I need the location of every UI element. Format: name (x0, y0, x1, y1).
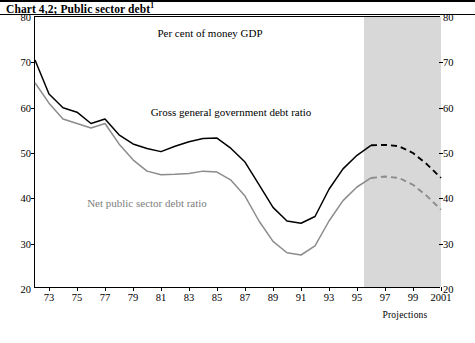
chart-figure: Chart 4,2; Public sector debt1 202030304… (0, 0, 475, 343)
x-axis-tick-label: 85 (212, 292, 223, 303)
y-axis-tick-label-right: 80 (443, 12, 469, 23)
x-axis-tick-label: 93 (324, 292, 335, 303)
x-axis-tick-mark (105, 287, 106, 291)
y-axis-tick-mark (31, 153, 35, 154)
x-axis-tick-mark (245, 287, 246, 291)
x-axis-tick-mark (273, 287, 274, 291)
x-axis-tick-mark (357, 287, 358, 291)
y-axis-tick-label-left: 70 (5, 57, 31, 68)
x-axis-tick-mark (301, 287, 302, 291)
y-axis-tick-mark (439, 198, 443, 199)
x-axis-tick-mark (133, 287, 134, 291)
y-axis-tick-label-left: 80 (5, 12, 31, 23)
x-axis-tick-label: 75 (72, 292, 83, 303)
y-axis-tick-label-left: 50 (5, 148, 31, 159)
x-axis-tick-mark (217, 287, 218, 291)
x-axis-tick-label: 91 (296, 292, 307, 303)
y-axis-tick-label-right: 50 (443, 148, 469, 159)
x-axis-tick-mark (329, 287, 330, 291)
x-axis-tick-label: 79 (128, 292, 139, 303)
chart-annotation: Gross general government debt ratio (151, 106, 312, 118)
x-axis-tick-mark (77, 287, 78, 291)
x-axis-tick-mark (413, 287, 414, 291)
x-axis-tick-label: 77 (100, 292, 111, 303)
x-axis-tick-mark (49, 287, 50, 291)
y-axis-tick-label-right: 60 (443, 102, 469, 113)
y-axis-tick-mark (439, 108, 443, 109)
y-axis-tick-label-left: 30 (5, 238, 31, 249)
y-axis-tick-label-left: 60 (5, 102, 31, 113)
y-axis-tick-mark (31, 244, 35, 245)
x-axis-tick-mark (441, 287, 442, 291)
chart-annotation: Net public sector debt ratio (87, 197, 207, 209)
chart-annotation: Per cent of money GDP (157, 27, 262, 39)
title-footnote-marker: 1 (150, 1, 154, 10)
y-axis-tick-label-left: 40 (5, 193, 31, 204)
y-axis-tick-label-right: 40 (443, 193, 469, 204)
x-axis-tick-mark (189, 287, 190, 291)
y-axis-tick-label-left: 20 (5, 284, 31, 295)
x-axis-tick-label: 97 (380, 292, 391, 303)
x-axis-tick-label: 87 (240, 292, 251, 303)
series-lines (35, 17, 441, 289)
plot-area: 2020303040405050606070708080737577798183… (34, 16, 440, 288)
y-axis-tick-mark (31, 198, 35, 199)
y-axis-tick-label-right: 30 (443, 238, 469, 249)
title-bottom-rule (0, 14, 475, 15)
x-axis-tick-label: 83 (184, 292, 195, 303)
x-axis-tick-label: 81 (156, 292, 167, 303)
y-axis-tick-mark (439, 62, 443, 63)
y-axis-tick-mark (439, 244, 443, 245)
x-axis-tick-label: 2001 (431, 292, 452, 303)
x-axis-tick-label: 99 (408, 292, 419, 303)
x-axis-tick-mark (161, 287, 162, 291)
chart-title-bar: Chart 4,2; Public sector debt1 (0, 0, 475, 16)
x-axis-tick-label: 89 (268, 292, 279, 303)
y-axis-tick-label-right: 70 (443, 57, 469, 68)
y-axis-tick-mark (439, 153, 443, 154)
projections-axis-label: Projections (383, 310, 428, 320)
x-axis-tick-label: 73 (44, 292, 55, 303)
y-axis-tick-mark (31, 108, 35, 109)
series-line (371, 177, 441, 210)
x-axis-tick-label: 95 (352, 292, 363, 303)
x-axis-tick-mark (385, 287, 386, 291)
series-line (371, 145, 441, 178)
y-axis-tick-mark (31, 62, 35, 63)
